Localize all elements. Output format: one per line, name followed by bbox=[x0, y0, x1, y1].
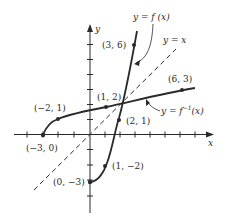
point-neg2-1 bbox=[56, 117, 60, 121]
label-point-neg2-1: (−2, 1) bbox=[34, 103, 66, 113]
point-neg3-0 bbox=[41, 133, 45, 137]
x-axis-arrow-icon bbox=[206, 132, 214, 138]
label-point-neg3-0: (−3, 0) bbox=[26, 143, 58, 153]
x-axis-label: x bbox=[208, 138, 213, 148]
label-point-1-2: (1, 2) bbox=[97, 92, 121, 102]
f-label-arrow-icon bbox=[134, 60, 140, 66]
f-inverse-label-arrow-icon bbox=[146, 99, 150, 106]
f-curve-label: y = f (x) bbox=[132, 12, 170, 22]
identity-line-label: y = x bbox=[162, 35, 186, 45]
y-axis: y bbox=[87, 24, 101, 213]
point-2-1 bbox=[117, 118, 121, 122]
label-point-6-3: (6, 3) bbox=[168, 74, 192, 84]
y-axis-arrow-icon bbox=[87, 24, 93, 32]
f-inverse-curve-label: y = f−1(x) bbox=[160, 104, 204, 116]
label-point-0-neg3: (0, −3) bbox=[53, 177, 85, 187]
function-inverse-diagram: x y y = x (3, bbox=[0, 0, 227, 223]
point-1-neg2 bbox=[103, 164, 107, 168]
f-curve bbox=[90, 31, 137, 182]
point-1-2 bbox=[104, 105, 108, 109]
label-point-1-neg2: (1, −2) bbox=[112, 161, 144, 171]
f-label-pointer bbox=[136, 24, 153, 63]
graph-canvas: x y y = x (3, bbox=[0, 0, 227, 223]
label-point-3-6: (3, 6) bbox=[102, 40, 126, 50]
point-0-neg3 bbox=[88, 180, 92, 184]
y-axis-label: y bbox=[94, 24, 101, 34]
label-point-2-1: (2, 1) bbox=[126, 116, 150, 126]
point-3-6 bbox=[132, 43, 136, 47]
point-6-3 bbox=[180, 88, 184, 92]
